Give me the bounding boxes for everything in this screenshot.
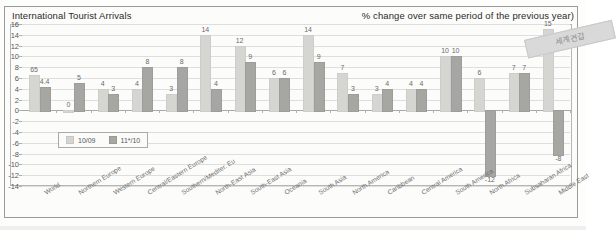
y-axis-tick-label: -8 (12, 149, 19, 158)
gridline (22, 56, 570, 57)
bar-value-label: 4 (385, 80, 389, 87)
y-axis-tick-label: -12 (8, 171, 19, 180)
gridline (22, 46, 570, 47)
bar[interactable] (451, 56, 462, 112)
y-axis-tick-mark (19, 78, 22, 79)
bar[interactable] (440, 56, 451, 112)
bar[interactable] (269, 78, 280, 112)
x-axis-tick-mark (399, 110, 400, 113)
bar[interactable] (63, 110, 74, 113)
bar-value-label: 8 (180, 58, 184, 65)
legend-item-label: 10/09 (78, 137, 96, 144)
bar-value-label: 5 (77, 74, 81, 81)
bar-value-label: 4 (101, 80, 105, 87)
bar-value-label: 0 (66, 101, 70, 108)
bar-value-label: 10 (441, 47, 449, 54)
bar[interactable] (509, 73, 520, 113)
bar-value-label: 4 (409, 80, 413, 87)
y-axis-tick-label: -6 (12, 138, 19, 147)
y-axis-tick-mark (19, 56, 22, 57)
bar-value-label: 7 (340, 64, 344, 71)
legend-swatch-icon (66, 136, 74, 144)
x-axis-tick-mark (193, 110, 194, 113)
bar[interactable] (519, 73, 530, 113)
x-axis-tick-mark (91, 110, 92, 113)
y-axis-tick-label: -2 (12, 117, 19, 126)
bar[interactable] (245, 62, 256, 113)
bar-value-label: 4 (419, 80, 423, 87)
bar-value-label: 10 (452, 47, 460, 54)
y-axis-tick-mark (19, 24, 22, 25)
bar[interactable] (474, 78, 485, 112)
bar[interactable] (211, 89, 222, 113)
bar[interactable] (74, 83, 85, 112)
gridline (22, 35, 570, 36)
y-axis-tick-label: 16 (11, 20, 19, 29)
bar[interactable] (416, 89, 427, 113)
bar[interactable] (166, 94, 177, 112)
y-axis-tick-label: 10 (11, 52, 19, 61)
x-axis-tick-mark (56, 110, 57, 113)
x-axis-tick-mark (159, 110, 160, 113)
bar[interactable] (303, 35, 314, 113)
bar[interactable] (337, 73, 348, 113)
bar[interactable] (235, 46, 246, 113)
bar[interactable] (177, 67, 188, 112)
bar-value-label: -8 (555, 155, 561, 162)
legend-item[interactable]: 11*/10 (109, 136, 141, 144)
bar[interactable] (200, 35, 211, 113)
bar-value-label: 15 (544, 20, 552, 27)
gridline (22, 24, 570, 25)
bar[interactable] (553, 110, 564, 155)
x-axis-tick-mark (125, 110, 126, 113)
bar-value-label: 65 (30, 66, 38, 73)
bar[interactable] (29, 75, 40, 112)
bar-value-label: 9 (248, 53, 252, 60)
page-bottom-edge (0, 226, 586, 230)
y-axis-tick-mark (19, 110, 22, 111)
bar[interactable] (142, 67, 153, 112)
bar-value-label: 6 (477, 69, 481, 76)
bar[interactable] (382, 89, 393, 113)
y-axis-tick-label: 12 (11, 41, 19, 50)
legend-item[interactable]: 10/09 (66, 136, 96, 144)
legend-swatch-icon (109, 136, 117, 144)
bar[interactable] (108, 94, 119, 112)
y-axis-tick-mark (19, 186, 22, 187)
x-axis-tick-mark (570, 110, 571, 113)
bar-value-label: 3 (351, 85, 355, 92)
bar[interactable] (132, 89, 143, 113)
x-axis-tick-mark (296, 110, 297, 113)
bar[interactable] (348, 94, 359, 112)
y-axis-tick-label: -14 (8, 182, 19, 191)
y-axis-tick-mark (19, 100, 22, 101)
bar-value-label: 4 (135, 80, 139, 87)
y-axis-tick-mark (19, 175, 22, 176)
bar[interactable] (372, 94, 383, 112)
bar-value-label: 3 (375, 85, 379, 92)
gridline (22, 67, 570, 68)
y-axis-tick-mark (19, 35, 22, 36)
x-axis-tick-mark (502, 110, 503, 113)
bar[interactable] (314, 62, 325, 113)
y-axis-tick-mark (19, 46, 22, 47)
bar[interactable] (279, 78, 290, 112)
y-axis-tick-mark (19, 67, 22, 68)
bar-value-label: 8 (145, 58, 149, 65)
bar[interactable] (40, 87, 51, 113)
bar-value-label: 9 (317, 53, 321, 60)
y-axis-tick-mark (19, 143, 22, 144)
chart-legend: 10/09 11*/10 (58, 132, 148, 148)
y-axis-tick-mark (19, 164, 22, 165)
bar[interactable] (406, 89, 417, 113)
x-axis-tick-mark (330, 110, 331, 113)
y-axis-tick-mark (19, 154, 22, 155)
bar[interactable] (98, 89, 109, 113)
legend-item-label: 11*/10 (121, 137, 141, 144)
x-axis-tick-mark (365, 110, 366, 113)
y-axis-tick-mark (19, 121, 22, 122)
chart-title: International Tourist Arrivals (12, 10, 132, 21)
x-axis-tick-mark (467, 110, 468, 113)
bar-value-label: 3 (169, 85, 173, 92)
